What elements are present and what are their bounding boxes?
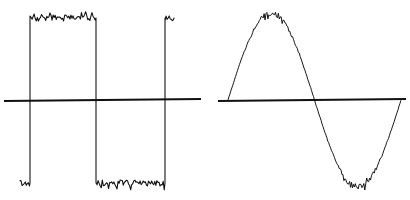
zero-axis-line-square bbox=[4, 99, 201, 101]
sine-wave-panel bbox=[205, 0, 410, 200]
sine-wave-plot bbox=[205, 0, 410, 200]
square-wave-panel bbox=[0, 0, 205, 200]
zero-axis-line-sine bbox=[218, 99, 406, 101]
square-wave-plot bbox=[0, 0, 205, 200]
oscilloscope-figure bbox=[0, 0, 410, 200]
